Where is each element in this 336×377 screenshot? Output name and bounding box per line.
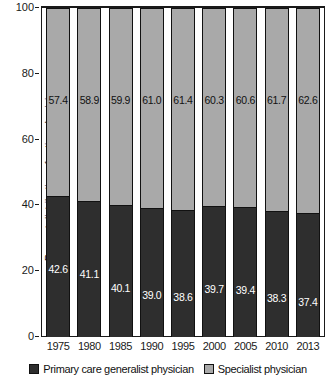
bar-segment-specialist[interactable]: 61.0 xyxy=(140,8,164,209)
bar-value-label-specialist: 58.9 xyxy=(78,94,100,106)
bars-layer: 57.442.658.941.159.940.161.039.061.438.6… xyxy=(43,8,324,337)
bar-column[interactable]: 62.637.4 xyxy=(296,8,320,337)
bar-segment-generalist[interactable]: 41.1 xyxy=(77,201,101,336)
y-axis-tick-label: 80 xyxy=(22,67,34,79)
y-axis-tick-mark xyxy=(35,204,39,205)
bar-value-label-generalist: 41.1 xyxy=(78,268,100,280)
bar-value-label-specialist: 59.9 xyxy=(110,94,132,106)
bar-column[interactable]: 60.639.4 xyxy=(233,8,257,337)
bar-segment-specialist[interactable]: 58.9 xyxy=(77,8,101,202)
y-axis-tick-mark xyxy=(35,73,39,74)
x-axis-tick-label: 2005 xyxy=(233,340,257,356)
bar-segment-specialist[interactable]: 61.4 xyxy=(171,8,195,210)
legend-item[interactable]: Primary care generalist physician xyxy=(29,363,193,375)
x-axis-tick-label: 1990 xyxy=(140,340,164,356)
bar-column[interactable]: 61.039.0 xyxy=(140,8,164,337)
bar-segment-generalist[interactable]: 39.0 xyxy=(140,208,164,336)
bar-segment-generalist[interactable]: 37.4 xyxy=(296,213,320,336)
y-axis-tick-label: 100 xyxy=(16,1,34,13)
bar-value-label-generalist: 39.4 xyxy=(234,284,256,296)
bar-value-label-generalist: 39.0 xyxy=(141,289,163,301)
bar-segment-specialist[interactable]: 62.6 xyxy=(296,8,320,214)
y-axis-tick-label: 40 xyxy=(22,198,34,210)
legend-item[interactable]: Specialist physician xyxy=(204,363,307,375)
bar-segment-generalist[interactable]: 40.1 xyxy=(109,205,133,337)
chart-legend: Primary care generalist physicianSpecial… xyxy=(0,360,336,377)
y-axis-tick-mark xyxy=(35,7,39,8)
bar-column[interactable]: 59.940.1 xyxy=(109,8,133,337)
bar-value-label-generalist: 38.6 xyxy=(172,291,194,303)
bar-column[interactable]: 60.339.7 xyxy=(202,8,226,337)
bar-segment-generalist[interactable]: 39.7 xyxy=(202,206,226,337)
bar-value-label-generalist: 40.1 xyxy=(110,282,132,294)
legend-label: Primary care generalist physician xyxy=(43,363,193,375)
x-axis-tick-label: 1975 xyxy=(46,340,70,356)
bar-segment-generalist[interactable]: 38.6 xyxy=(171,210,195,337)
bar-column[interactable]: 61.738.3 xyxy=(265,8,289,337)
bar-column[interactable]: 57.442.6 xyxy=(46,8,70,337)
bar-value-label-specialist: 61.0 xyxy=(141,94,163,106)
bar-value-label-generalist: 37.4 xyxy=(297,296,319,308)
bar-value-label-specialist: 60.6 xyxy=(234,94,256,106)
bar-segment-specialist[interactable]: 60.3 xyxy=(202,8,226,206)
bar-value-label-specialist: 57.4 xyxy=(47,94,69,106)
legend-label: Specialist physician xyxy=(218,363,307,375)
y-axis-tick-label: 0 xyxy=(28,330,34,342)
bar-value-label-specialist: 61.4 xyxy=(172,94,194,106)
bar-value-label-specialist: 60.3 xyxy=(203,94,225,106)
bar-segment-specialist[interactable]: 61.7 xyxy=(265,8,289,211)
x-axis-tick-label: 1980 xyxy=(77,340,101,356)
bar-column[interactable]: 58.941.1 xyxy=(77,8,101,337)
bar-value-label-generalist: 38.3 xyxy=(266,292,288,304)
y-axis-tick-mark xyxy=(35,139,39,140)
x-axis-tick-label: 2010 xyxy=(265,340,289,356)
bar-segment-generalist[interactable]: 42.6 xyxy=(46,196,70,336)
legend-swatch-icon xyxy=(29,364,39,374)
bar-segment-generalist[interactable]: 38.3 xyxy=(265,211,289,337)
y-axis-tick-label: 20 xyxy=(22,264,34,276)
bar-segment-specialist[interactable]: 59.9 xyxy=(109,8,133,205)
x-axis-tick-label: 1995 xyxy=(171,340,195,356)
bar-segment-specialist[interactable]: 57.4 xyxy=(46,8,70,197)
y-axis-tick-group: 100806040200 xyxy=(0,0,39,377)
x-axis-tick-label: 2000 xyxy=(202,340,226,356)
x-axis-tick-label: 1985 xyxy=(109,340,133,356)
legend-swatch-icon xyxy=(204,364,214,374)
y-axis-tick-label: 60 xyxy=(22,133,34,145)
x-axis-tick-label: 2013 xyxy=(296,340,320,356)
bar-segment-specialist[interactable]: 60.6 xyxy=(233,8,257,207)
bar-value-label-specialist: 62.6 xyxy=(297,94,319,106)
y-axis-tick-mark xyxy=(35,270,39,271)
bar-segment-generalist[interactable]: 39.4 xyxy=(233,207,257,337)
x-axis-tick-group: 197519801985199019952000200520102013 xyxy=(43,340,324,356)
bar-column[interactable]: 61.438.6 xyxy=(171,8,195,337)
stacked-bar-chart: Percent distribution of active physician… xyxy=(0,0,336,377)
y-axis-tick-mark xyxy=(35,336,39,337)
bar-value-label-specialist: 61.7 xyxy=(266,94,288,106)
bar-value-label-generalist: 39.7 xyxy=(203,283,225,295)
bar-value-label-generalist: 42.6 xyxy=(47,263,69,275)
